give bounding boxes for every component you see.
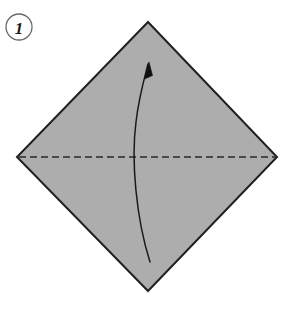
origami-diagram-canvas: 1 xyxy=(0,0,292,324)
origami-step-figure: 1 xyxy=(0,0,292,324)
step-number-label: 1 xyxy=(15,19,24,38)
